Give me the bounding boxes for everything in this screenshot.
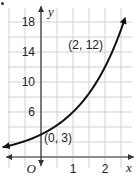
point-label-0-3: (0, 3) <box>44 131 72 145</box>
y-tick-label: 6 <box>28 105 35 119</box>
y-axis-arrow-up-icon <box>38 6 44 12</box>
exponential-graph: 610141812Oxy(0, 3)(2, 12) <box>0 0 139 180</box>
x-tick-label: 1 <box>70 162 77 176</box>
y-tick-label: 14 <box>22 45 36 59</box>
tick-labels: 610141812Oxy(0, 3)(2, 12) <box>22 4 132 176</box>
y-tick-label: 18 <box>22 15 36 29</box>
point-label-2-12: (2, 12) <box>68 38 103 52</box>
x-axis-label: x <box>125 160 132 175</box>
y-tick-label: 10 <box>22 75 36 89</box>
x-tick-label: 2 <box>102 162 109 176</box>
y-axis-label: y <box>46 4 54 19</box>
y-axis-arrow-down-icon <box>38 160 44 166</box>
origin-label: O <box>27 161 37 176</box>
